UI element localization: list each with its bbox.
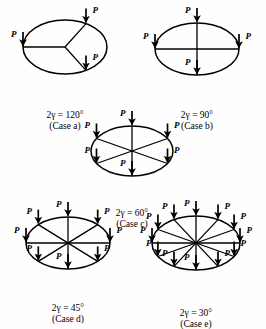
load-label: P: [26, 206, 32, 216]
load-label: P: [185, 57, 191, 67]
load-label: P: [85, 120, 91, 130]
load-label: P: [241, 238, 247, 248]
load-label: P: [116, 225, 122, 235]
load-label: P: [184, 252, 190, 262]
load-label: P: [185, 5, 191, 15]
load-label: P: [92, 52, 98, 62]
load-label: P: [85, 145, 91, 155]
load-label: P: [245, 31, 251, 41]
load-label: P: [92, 5, 98, 15]
case-d-angle-label: 2γ = 45°: [0, 303, 136, 314]
case-e-caption: 2γ = 30°(Case e): [126, 308, 266, 329]
load-label: P: [143, 31, 149, 41]
case-a-drawing: PPP: [0, 0, 133, 100]
load-label: P: [56, 251, 62, 261]
load-label: P: [146, 238, 152, 248]
case-c-drawing: PPPPPP: [65, 100, 199, 202]
case-b-drawing: PPPP: [129, 0, 265, 101]
load-label: P: [184, 198, 190, 208]
load-label: P: [146, 211, 152, 221]
load-label: P: [224, 248, 230, 258]
load-label: P: [104, 206, 110, 216]
load-label: P: [246, 225, 252, 235]
case-d-caption: 2γ = 45°(Case d): [0, 303, 136, 324]
case-d-name-label: (Case d): [0, 314, 136, 325]
load-label: P: [120, 108, 126, 118]
load-label: P: [14, 225, 20, 235]
case-e: PPPPPPPPPPPP2γ = 30°(Case e): [126, 190, 266, 329]
load-label: P: [11, 29, 17, 39]
load-label: P: [241, 211, 247, 221]
case-a-loads: PPP: [11, 5, 98, 69]
case-e-drawing: PPPPPPPPPPPP: [126, 190, 266, 296]
load-label: P: [174, 120, 180, 130]
case-e-angle-label: 2γ = 30°: [126, 308, 266, 319]
load-label: P: [224, 201, 230, 211]
case-e-name-label: (Case e): [126, 319, 266, 329]
load-label: P: [26, 243, 32, 253]
case-d: PPPPPPPP2γ = 45°(Case d): [0, 191, 136, 324]
load-label: P: [140, 225, 146, 235]
load-label: P: [120, 158, 126, 168]
load-label: P: [174, 145, 180, 155]
load-label: P: [56, 199, 62, 209]
load-label: P: [162, 201, 168, 211]
load-label: P: [162, 248, 168, 258]
load-label: P: [104, 243, 110, 253]
case-d-drawing: PPPPPPPP: [0, 191, 136, 295]
